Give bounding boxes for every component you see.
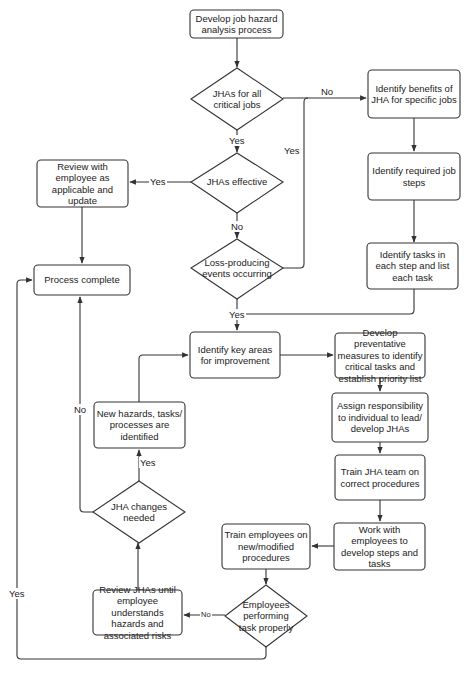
node-process-complete: Process complete: [34, 265, 130, 295]
edge-label-performing-yes: Yes: [8, 588, 26, 599]
edge-label-changes-yes: Yes: [139, 457, 157, 468]
node-train-employees: Train employees on new/modified procedur…: [222, 524, 310, 569]
edge-label-loss-yes: Yes: [228, 309, 246, 320]
node-identify-benefits: Identify benefits of JHA for specific jo…: [368, 70, 460, 118]
decision-employees-performing-task: Employees performing task properly: [232, 598, 300, 634]
node-review-with-employee: Review with employee as applicable and u…: [37, 160, 128, 207]
decision-jhas-effective: JHAs effective: [196, 172, 278, 192]
node-assign-responsibility: Assign responsibility to individual to l…: [332, 393, 428, 442]
node-train-jha-team: Train JHA team on correct procedures: [335, 455, 425, 500]
node-work-with-employees: Work with employees to develop steps and…: [334, 523, 425, 570]
node-identify-key-areas: Identify key areas for improvement: [190, 332, 280, 378]
edge-label-effective-yes: Yes: [149, 176, 167, 187]
edge-label-changes-no: No: [73, 404, 87, 415]
decision-jhas-for-all-critical-jobs: JHAs for all critical jobs: [200, 80, 274, 118]
edge-label-effective-no: No: [230, 221, 244, 232]
node-develop-jha-process: Develop job hazard analysis process: [190, 10, 283, 38]
node-review-jhas-until: Review JHAs until employee understands h…: [93, 590, 182, 635]
node-identify-job-steps: Identify required job steps: [368, 153, 460, 200]
decision-loss-producing-events: Loss-producing events occurring: [196, 252, 278, 284]
edge-label-all-critical-no: No: [320, 86, 334, 97]
edge-label-all-critical-yes: Yes: [228, 135, 246, 146]
edge-label-loss-yes-up: Yes: [283, 145, 301, 156]
edge-label-performing-no: No: [200, 609, 212, 620]
node-new-hazards-identified: New hazards, tasks/ processes are identi…: [94, 402, 185, 448]
node-develop-preventative-measures: Develop preventative measures to identif…: [335, 333, 425, 378]
node-identify-tasks-each-step: Identify tasks in each step and list eac…: [367, 243, 458, 289]
decision-jha-changes-needed: JHA changes needed: [108, 498, 170, 526]
